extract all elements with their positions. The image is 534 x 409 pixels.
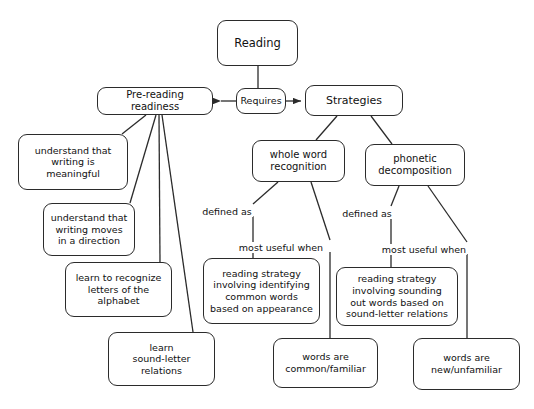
edge-pre-reading-to-direction — [130, 115, 156, 203]
edge-label-defined-as-right: defined as — [341, 208, 393, 219]
node-requires[interactable]: Requires — [236, 88, 286, 114]
edge-label-defined-as-left: defined as — [201, 206, 253, 217]
edge-whole-word-to-defined — [253, 182, 278, 204]
node-strategies[interactable]: Strategies — [305, 85, 403, 116]
edge-whole-word-to-most-useful — [311, 182, 330, 240]
node-reading-strategy-sounding[interactable]: reading strategy involving sounding out … — [336, 267, 458, 326]
node-reading[interactable]: Reading — [217, 20, 298, 66]
edge-strategies-to-whole-word — [316, 116, 337, 140]
edge-strategies-to-phonetic — [371, 116, 392, 144]
edge-phonetic-to-defined — [391, 186, 399, 206]
node-understand-direction[interactable]: understand that writing moves in a direc… — [43, 203, 135, 256]
node-phonetic-decomposition[interactable]: phonetic decomposition — [365, 144, 465, 186]
concept-map-canvas: ReadingRequiresPre-reading readinessStra… — [0, 0, 534, 409]
edge-label-most-useful-when-right: most useful when — [381, 244, 467, 255]
edge-label-most-useful-when-left: most useful when — [238, 242, 324, 253]
node-learn-sound-letter[interactable]: learn sound-letter relations — [108, 332, 215, 386]
edge-pre-reading-to-meaningful — [122, 115, 146, 134]
node-reading-strategy-appearance[interactable]: reading strategy involving identifying c… — [203, 258, 320, 324]
node-pre-reading-readiness[interactable]: Pre-reading readiness — [97, 87, 213, 115]
node-learn-letters[interactable]: learn to recognize letters of the alphab… — [65, 262, 172, 317]
node-whole-word-recognition[interactable]: whole word recognition — [252, 140, 345, 182]
node-understand-meaningful[interactable]: understand that writing is meaningful — [18, 134, 128, 190]
node-words-common[interactable]: words are common/familiar — [273, 338, 378, 388]
edge-pre-reading-to-letters — [159, 115, 160, 262]
node-words-new[interactable]: words are new/unfamiliar — [413, 338, 520, 390]
edge-phonetic-to-most-useful — [428, 186, 467, 242]
